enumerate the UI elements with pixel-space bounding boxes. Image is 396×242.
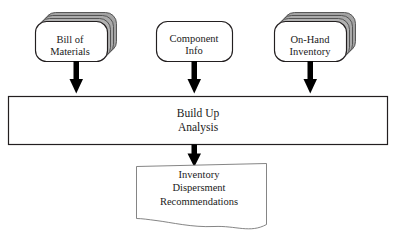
node-build-up-analysis[interactable] — [9, 97, 388, 145]
arrow-component-to-analysis — [188, 61, 202, 94]
arrow-head — [70, 79, 84, 94]
arrow-shaft — [74, 61, 80, 81]
node-component-info[interactable] — [157, 22, 233, 62]
arrow-head — [188, 79, 202, 94]
arrow-bom-to-analysis — [70, 61, 84, 94]
node-on-hand-inventory[interactable] — [275, 13, 356, 62]
process-flow-diagram: Bill of Materials Component Info On-Hand… — [0, 0, 396, 242]
diagram-canvas — [0, 0, 396, 242]
stack-sheet-front — [275, 22, 347, 62]
build-up-analysis-shape — [9, 97, 388, 145]
node-inventory-dispersment-recommendations[interactable] — [137, 164, 267, 229]
component-info-shape — [157, 22, 233, 62]
stack-sheet-front — [36, 22, 108, 62]
node-bill-of-materials[interactable] — [36, 13, 117, 62]
arrow-onhand-to-analysis — [304, 61, 318, 94]
arrow-head — [304, 79, 318, 94]
arrow-shaft — [308, 61, 314, 81]
arrow-analysis-to-output — [188, 145, 202, 168]
document-shape — [137, 164, 267, 229]
arrow-shaft — [192, 61, 198, 81]
